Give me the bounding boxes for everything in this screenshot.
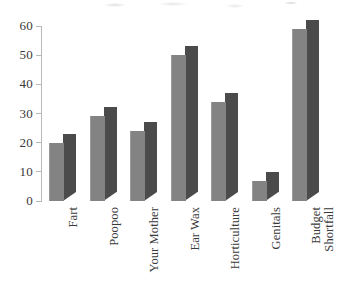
bar-base-face — [185, 192, 198, 201]
bar-front-face — [130, 131, 145, 201]
plot-area — [41, 18, 349, 201]
bar-base-face — [104, 192, 117, 201]
y-axis-tick-label: 30 — [6, 107, 33, 120]
x-axis-labels: FartPoopooYour MotherEar WaxHorticulture… — [41, 205, 349, 307]
bar-base-face — [306, 192, 319, 201]
bar-column — [49, 134, 76, 201]
bar-front-face — [49, 143, 64, 201]
bar-side-face — [144, 122, 157, 192]
bar-front-face — [211, 102, 226, 201]
bar-side-face — [185, 46, 198, 192]
bar-column — [130, 122, 157, 201]
y-axis-tick-label: 10 — [6, 165, 33, 178]
bar-base-face — [225, 192, 238, 201]
x-axis-category-label: Horticulture — [229, 207, 242, 307]
bar-front-face — [171, 55, 186, 201]
y-axis-tick-label: 20 — [6, 136, 33, 149]
bar-base-face — [266, 192, 279, 201]
bar-side-face — [306, 20, 319, 192]
bar-side-face — [104, 107, 117, 192]
bar-base-face — [63, 192, 76, 201]
scan-artifact — [95, 0, 349, 12]
bar-chart: 0102030405060 FartPoopooYour MotherEar W… — [0, 0, 349, 307]
x-axis-category-label: Ear Wax — [189, 207, 202, 307]
bar-base-face — [144, 192, 157, 201]
y-axis-tick-label: 50 — [6, 48, 33, 61]
x-axis-category-label: Your Mother — [148, 207, 161, 307]
x-axis-category-label: Poopoo — [108, 207, 121, 307]
y-axis-tick-label: 60 — [6, 19, 33, 32]
x-axis-category-label: Fart — [67, 207, 80, 307]
y-axis-tick-label: 0 — [6, 194, 33, 207]
bar-column — [90, 107, 117, 201]
bar-side-face — [225, 93, 238, 192]
bar-front-face — [252, 181, 267, 201]
x-axis-category-label: Genitals — [270, 207, 283, 307]
y-axis-tick-label: 40 — [6, 77, 33, 90]
bar-column — [292, 20, 319, 201]
bar-column — [171, 46, 198, 201]
x-axis-category-label: Budget Shortfall — [310, 207, 336, 307]
bar-column — [252, 172, 279, 201]
bar-front-face — [90, 116, 105, 201]
bar-column — [211, 93, 238, 201]
bar-front-face — [292, 29, 307, 201]
